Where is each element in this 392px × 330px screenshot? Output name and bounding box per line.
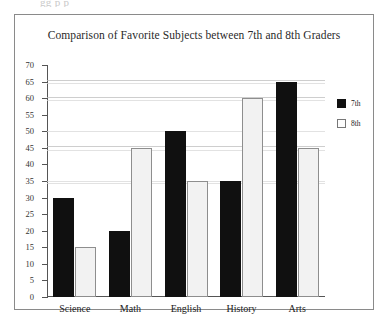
bar-history-7th (220, 181, 241, 297)
chart-title: Comparison of Favorite Subjects between … (15, 29, 373, 41)
x-label-arts: Arts (289, 303, 306, 314)
y-tick-label-15: 15 (26, 243, 35, 252)
bar-arts-7th (276, 82, 297, 297)
x-label-science: Science (59, 303, 90, 314)
y-tick-label-40: 40 (26, 160, 35, 169)
bar-math-8th (131, 148, 152, 297)
y-tick-label-30: 30 (26, 193, 35, 202)
y-tick-label-50: 50 (26, 127, 35, 136)
y-tick-label-70: 70 (26, 61, 35, 70)
y-tick-10: 10 (42, 264, 48, 265)
y-tick-0: 0 (42, 297, 48, 298)
y-tick-25: 25 (42, 214, 48, 215)
y-tick-60: 60 (42, 98, 48, 99)
x-label-math: Math (120, 303, 141, 314)
legend-swatch-8th-icon (337, 119, 346, 128)
bar-english-7th (165, 131, 186, 297)
legend-entry-7th: 7th (337, 99, 377, 108)
y-tick-20: 20 (42, 231, 48, 232)
y-tick-15: 15 (42, 247, 48, 248)
y-tick-label-5: 5 (30, 276, 34, 285)
legend-swatch-7th-icon (337, 99, 346, 108)
y-tick-5: 5 (42, 280, 48, 281)
chart-legend: 7th 8th (337, 99, 377, 139)
y-tick-70: 70 (42, 65, 48, 66)
y-tick-label-0: 0 (30, 293, 34, 302)
y-tick-label-65: 65 (26, 77, 35, 86)
y-tick-45: 45 (42, 148, 48, 149)
y-tick-label-35: 35 (26, 177, 35, 186)
legend-label-7th: 7th (351, 100, 361, 108)
y-tick-label-20: 20 (26, 226, 35, 235)
y-tick-35: 35 (42, 181, 48, 182)
y-tick-30: 30 (42, 198, 48, 199)
y-tick-label-25: 25 (26, 210, 35, 219)
bar-arts-8th (298, 148, 319, 297)
y-tick-label-55: 55 (26, 110, 35, 119)
bar-history-8th (242, 98, 263, 297)
x-label-history: History (227, 303, 257, 314)
bar-science-7th (53, 198, 74, 297)
chart-figure-box: Comparison of Favorite Subjects between … (14, 14, 374, 310)
scan-artifact-text: gg p p (40, 0, 350, 7)
legend-label-8th: 8th (351, 120, 361, 128)
legend-entry-8th: 8th (337, 119, 377, 128)
bar-science-8th (75, 247, 96, 297)
x-label-english: English (171, 303, 202, 314)
y-tick-40: 40 (42, 164, 48, 165)
y-tick-50: 50 (42, 131, 48, 132)
bar-math-7th (109, 231, 130, 297)
y-tick-65: 65 (42, 82, 48, 83)
y-tick-55: 55 (42, 115, 48, 116)
y-tick-label-10: 10 (26, 260, 35, 269)
bar-english-8th (187, 181, 208, 297)
y-tick-label-60: 60 (26, 94, 35, 103)
y-tick-label-45: 45 (26, 144, 35, 153)
plot-area: 7065605550454035302520151050 ScienceMath… (47, 65, 325, 297)
